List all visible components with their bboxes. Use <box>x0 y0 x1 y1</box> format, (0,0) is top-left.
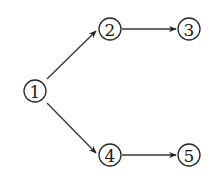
node-1: 1 <box>24 80 46 102</box>
node-5-label: 5 <box>184 146 195 166</box>
node-2: 2 <box>99 18 121 40</box>
node-1-label: 1 <box>30 82 41 102</box>
directed-graph: 1 2 3 4 5 <box>0 0 222 178</box>
edge-1-2 <box>47 31 96 79</box>
node-2-label: 2 <box>105 20 116 40</box>
edge-1-4 <box>47 103 96 153</box>
node-4-label: 4 <box>105 146 116 166</box>
node-4: 4 <box>99 144 121 166</box>
node-5: 5 <box>178 144 200 166</box>
node-3-label: 3 <box>184 20 195 40</box>
node-3: 3 <box>178 18 200 40</box>
